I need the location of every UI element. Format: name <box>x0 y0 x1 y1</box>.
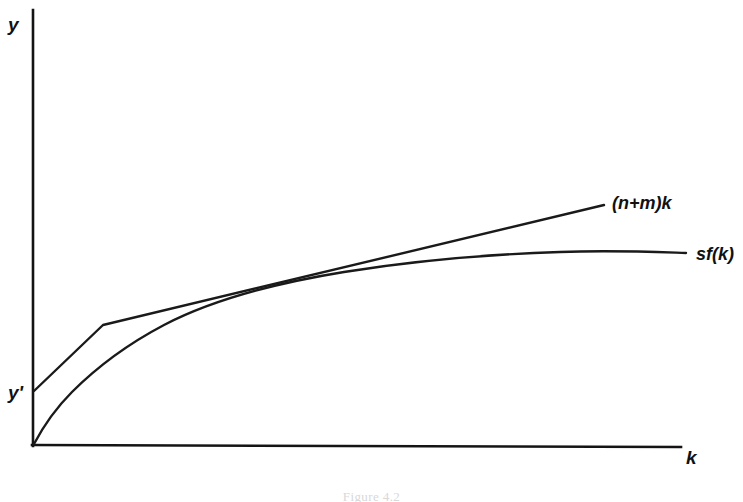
label-sf-k: sf(k) <box>696 244 734 264</box>
figure-container: y y' k (n+m)k sf(k) Figure 4.2 <box>0 0 743 502</box>
y-intercept-label: y' <box>7 382 25 403</box>
figure-caption: Figure 4.2 <box>0 489 743 502</box>
curve-sf-k <box>34 251 686 444</box>
label-n-plus-m-k: (n+m)k <box>612 193 673 213</box>
x-axis-label: k <box>686 447 698 468</box>
line-n-plus-m-k <box>34 205 604 391</box>
x-axis <box>32 445 681 447</box>
y-axis-label: y <box>7 14 20 35</box>
solow-growth-diagram: y y' k (n+m)k sf(k) <box>0 0 743 502</box>
